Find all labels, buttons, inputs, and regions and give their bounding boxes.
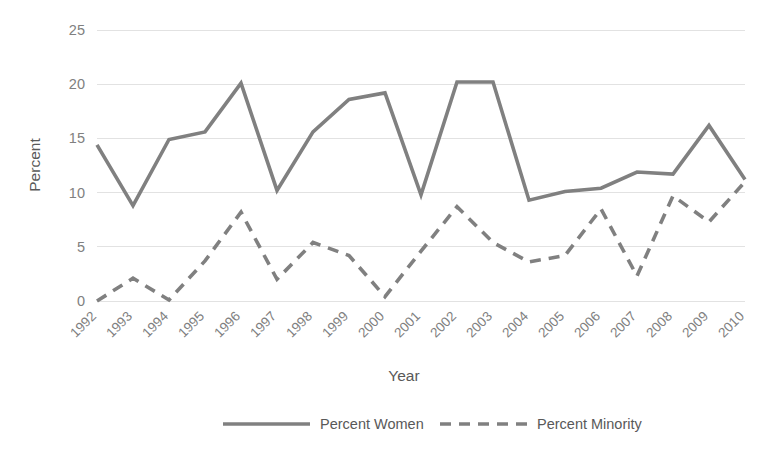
- line-chart: 0510152025 Percent 199219931994199519961…: [0, 0, 772, 463]
- y-axis-title: Percent: [26, 138, 43, 192]
- x-tick-label: 1997: [247, 309, 279, 341]
- chart-canvas: 0510152025 Percent 199219931994199519961…: [0, 0, 772, 463]
- x-tick-label: 2010: [715, 309, 747, 341]
- chart-legend: Percent WomenPercent Minority: [223, 416, 643, 432]
- x-tick-label: 2000: [355, 309, 387, 341]
- x-tick-label: 1994: [139, 308, 171, 340]
- y-tick-label: 25: [69, 22, 85, 38]
- y-axis-tick-labels: 0510152025: [69, 22, 85, 309]
- x-tick-label: 2003: [463, 309, 495, 341]
- x-axis-tick-labels: 1992199319941995199619971998199920002001…: [67, 308, 747, 340]
- x-tick-label: 1996: [211, 309, 243, 341]
- y-tick-label: 5: [77, 239, 85, 255]
- y-tick-label: 15: [69, 130, 85, 146]
- x-tick-label: 2001: [391, 309, 423, 341]
- y-tick-label: 0: [77, 293, 85, 309]
- x-tick-label: 1992: [67, 309, 99, 341]
- x-tick-label: 2004: [499, 308, 531, 340]
- x-tick-label: 2006: [571, 309, 603, 341]
- y-tick-label: 10: [69, 185, 85, 201]
- legend-label-0[interactable]: Percent Women: [320, 416, 424, 432]
- plot-gridlines: [97, 30, 745, 301]
- series-line-0: [97, 82, 745, 206]
- x-tick-label: 2007: [607, 309, 639, 341]
- x-axis-title: Year: [388, 367, 419, 384]
- x-tick-label: 2002: [427, 309, 459, 341]
- y-tick-label: 20: [69, 76, 85, 92]
- x-tick-label: 1998: [283, 309, 315, 341]
- legend-label-1[interactable]: Percent Minority: [537, 416, 643, 432]
- x-tick-label: 2009: [679, 309, 711, 341]
- x-tick-label: 2008: [643, 309, 675, 341]
- x-tick-label: 1993: [103, 309, 135, 341]
- x-tick-label: 2005: [535, 309, 567, 341]
- x-tick-label: 1999: [319, 309, 351, 341]
- x-tick-label: 1995: [175, 309, 207, 341]
- data-series-group: [97, 82, 745, 301]
